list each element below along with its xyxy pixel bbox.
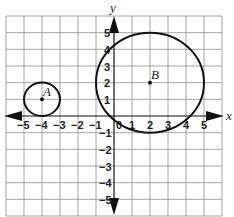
y-tick-label: −4	[99, 177, 112, 189]
coordinate-plane: x y −5 −4 −3 −2 −1 0 1 2 3 4 5 1 2 3 4 5…	[0, 0, 234, 217]
y-tick-label: 2	[104, 77, 110, 89]
point-b-label: B	[151, 67, 159, 82]
y-tick-label: −3	[99, 161, 112, 173]
y-tick-label: −1	[99, 127, 112, 139]
x-tick-label: −5	[17, 119, 30, 131]
y-tick-label: −5	[99, 194, 112, 206]
x-tick-label: 2	[147, 119, 153, 131]
y-axis-label: y	[108, 0, 116, 15]
x-axis-label: x	[225, 108, 232, 123]
y-tick-label: 5	[104, 27, 110, 39]
x-tick-label: −4	[35, 119, 48, 131]
x-tick-label: −2	[71, 119, 84, 131]
y-axis-up-arrow-icon	[109, 16, 119, 33]
y-tick-label: −2	[99, 144, 112, 156]
y-tick-label: 1	[104, 94, 110, 106]
x-tick-label: 5	[201, 119, 207, 131]
y-tick-label: 3	[104, 61, 110, 73]
x-axis-right-arrow-icon	[206, 111, 224, 121]
x-tick-label: −3	[53, 119, 66, 131]
point-a-label: A	[42, 84, 51, 99]
